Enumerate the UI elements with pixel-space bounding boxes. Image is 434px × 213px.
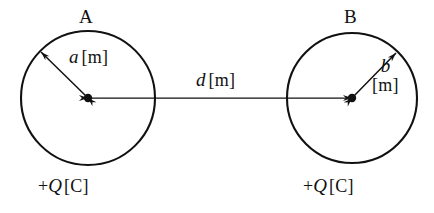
sphere-a-charge-unit: [C] bbox=[64, 176, 89, 196]
sphere-b-charge-symbol: Q bbox=[313, 175, 327, 196]
distance-unit: [m] bbox=[209, 70, 236, 90]
figure-canvas: A B a[m] b [m] d[m] +Q[C] +Q[C] bbox=[0, 0, 434, 213]
radius-a-unit: [m] bbox=[82, 47, 109, 67]
sphere-b-charge-unit: [C] bbox=[329, 176, 354, 196]
sphere-a-charge-symbol: Q bbox=[48, 175, 62, 196]
radius-b-symbol: b bbox=[372, 56, 399, 76]
sphere-b-charge-sign: + bbox=[303, 176, 313, 196]
radius-a-symbol: a bbox=[69, 46, 79, 67]
sphere-b-charge-label: +Q[C] bbox=[303, 176, 354, 196]
sphere-b-center-dot bbox=[348, 94, 356, 102]
radius-b-unit: [m] bbox=[372, 76, 399, 95]
radius-a-label: a[m] bbox=[69, 47, 108, 67]
distance-label: d[m] bbox=[196, 70, 235, 90]
sphere-b-name-label: B bbox=[344, 7, 357, 27]
sphere-a-charge-sign: + bbox=[38, 176, 48, 196]
sphere-a-charge-label: +Q[C] bbox=[38, 176, 89, 196]
sphere-a-center-dot bbox=[84, 94, 92, 102]
sphere-a-name-label: A bbox=[79, 7, 93, 27]
distance-symbol: d bbox=[196, 69, 206, 90]
radius-b-label: b [m] bbox=[372, 56, 399, 95]
